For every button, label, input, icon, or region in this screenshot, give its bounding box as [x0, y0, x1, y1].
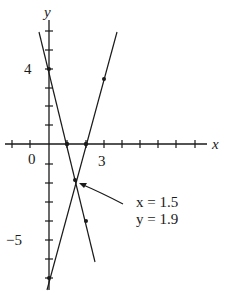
- tick-label-3: 3: [98, 153, 106, 169]
- point-inc-2-0: [84, 142, 88, 146]
- point-inc-3-3.5: [102, 77, 106, 81]
- increasing-line: [47, 32, 117, 290]
- tick-label-4: 4: [24, 61, 32, 77]
- annotation-y: y = 1.9: [136, 211, 178, 227]
- line-chart: y x 0 3 4 −5 x = 1.5 y = 1.9: [0, 0, 238, 299]
- intersection-point: [73, 178, 77, 182]
- point-dec-2-neg4: [84, 219, 88, 223]
- tick-label-neg5: −5: [6, 232, 22, 248]
- point-inc-0-neg7: [47, 276, 51, 280]
- annotation-x: x = 1.5: [136, 194, 178, 210]
- point-dec-0-4: [47, 67, 51, 71]
- y-axis-label: y: [42, 4, 51, 20]
- annotation-arrow: [79, 183, 123, 204]
- tick-label-0: 0: [28, 151, 36, 167]
- x-axis-label: x: [211, 136, 219, 152]
- point-dec-1-0: [65, 142, 69, 146]
